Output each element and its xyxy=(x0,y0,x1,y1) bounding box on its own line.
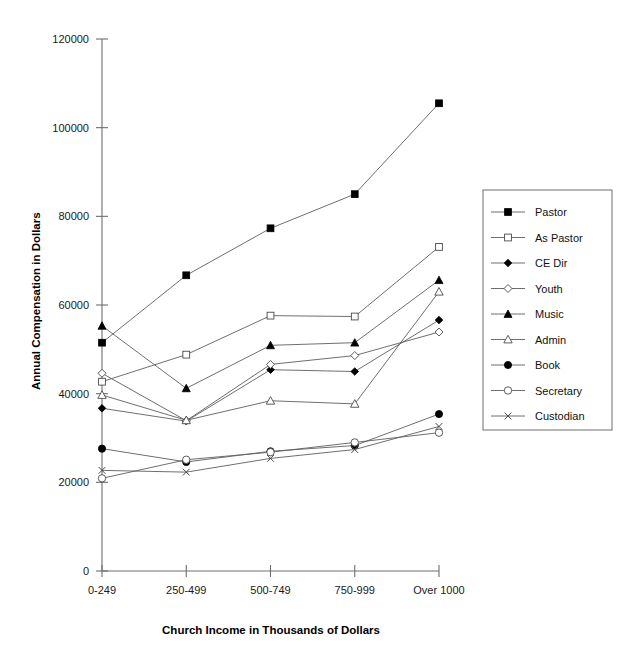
x-axis: 0-249250-499500-749750-999Over 1000 xyxy=(88,565,465,596)
data-point-marker xyxy=(99,339,106,346)
y-axis-tick-label: 100000 xyxy=(52,122,89,134)
y-axis-tick-label: 120000 xyxy=(52,33,89,45)
data-point-marker xyxy=(98,391,106,399)
x-axis-tick-label: Over 1000 xyxy=(413,584,464,596)
y-axis-tick-label: 60000 xyxy=(58,299,89,311)
legend-label: CE Dir xyxy=(535,257,568,269)
data-point-marker xyxy=(435,316,443,324)
series-line xyxy=(102,103,439,342)
data-point-marker xyxy=(435,288,443,296)
x-axis-tick-label: 500-749 xyxy=(250,584,290,596)
x-axis-tick-label: 250-499 xyxy=(166,584,206,596)
data-point-marker xyxy=(99,378,106,385)
x-axis-title: Church Income in Thousands of Dollars xyxy=(162,624,380,636)
x-axis-tick-label: 0-249 xyxy=(88,584,116,596)
data-point-marker xyxy=(266,397,274,405)
series-plot-area xyxy=(98,100,443,482)
data-point-marker xyxy=(435,429,442,436)
data-point-marker xyxy=(436,100,443,107)
chart-series xyxy=(98,316,443,425)
data-point-marker xyxy=(182,384,190,391)
data-point-marker xyxy=(505,234,512,241)
data-point-marker xyxy=(183,272,190,279)
legend-label: Youth xyxy=(535,283,563,295)
data-point-marker xyxy=(351,439,358,446)
data-point-marker xyxy=(267,448,274,455)
legend-label: Book xyxy=(535,359,561,371)
y-axis: 020000400006000080000100000120000 xyxy=(52,33,108,577)
data-point-marker xyxy=(351,368,359,376)
data-point-marker xyxy=(98,322,106,329)
legend-label: Secretary xyxy=(535,385,583,397)
data-point-marker xyxy=(351,313,358,320)
data-point-marker xyxy=(504,361,511,368)
legend-label: Music xyxy=(535,308,564,320)
data-point-marker xyxy=(267,312,274,319)
y-axis-title: Annual Compensation in Dollars xyxy=(30,212,42,390)
data-point-marker xyxy=(504,387,511,394)
line-chart: 020000400006000080000100000120000 0-2492… xyxy=(0,0,629,655)
legend-label: Admin xyxy=(535,334,566,346)
y-axis-tick-label: 80000 xyxy=(58,210,89,222)
data-point-marker xyxy=(505,209,512,216)
data-point-marker xyxy=(435,410,442,417)
y-axis-tick-label: 0 xyxy=(83,565,89,577)
chart-series xyxy=(98,429,442,482)
data-point-marker xyxy=(351,191,358,198)
legend-label: As Pastor xyxy=(535,232,583,244)
chart-series xyxy=(99,100,443,346)
x-axis-tick-label: 750-999 xyxy=(335,584,375,596)
data-point-marker xyxy=(98,475,105,482)
data-point-marker xyxy=(351,352,359,360)
chart-series xyxy=(98,276,443,392)
y-axis-tick-label: 20000 xyxy=(58,476,89,488)
data-point-marker xyxy=(435,276,443,283)
data-point-marker xyxy=(183,351,190,358)
data-point-marker xyxy=(98,369,106,377)
chart-container: 020000400006000080000100000120000 0-2492… xyxy=(0,0,629,655)
legend-label: Custodian xyxy=(535,410,585,422)
data-point-marker xyxy=(267,225,274,232)
chart-legend: PastorAs PastorCE DirYouthMusicAdminBook… xyxy=(483,190,612,430)
data-point-marker xyxy=(98,404,106,412)
y-axis-tick-label: 40000 xyxy=(58,388,89,400)
legend-label: Pastor xyxy=(535,206,567,218)
chart-series xyxy=(98,288,443,424)
data-point-marker xyxy=(183,456,190,463)
data-point-marker xyxy=(267,360,275,368)
data-point-marker xyxy=(98,445,105,452)
data-point-marker xyxy=(436,244,443,251)
data-point-marker xyxy=(435,328,443,336)
